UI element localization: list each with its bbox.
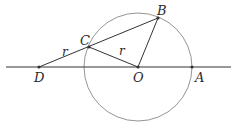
label-d: D	[33, 70, 45, 85]
segment-db	[39, 18, 158, 67]
label-r-dc: r	[62, 45, 69, 59]
point-d	[37, 65, 40, 68]
label-c: C	[80, 33, 90, 48]
point-a	[190, 65, 193, 68]
point-o	[136, 65, 139, 68]
segment-co	[89, 47, 138, 67]
label-o: O	[133, 70, 144, 85]
label-b: B	[156, 3, 167, 18]
label-r-co: r	[119, 44, 126, 58]
label-a: A	[194, 70, 204, 85]
geometry-diagram: D C O B A r r	[0, 0, 234, 127]
